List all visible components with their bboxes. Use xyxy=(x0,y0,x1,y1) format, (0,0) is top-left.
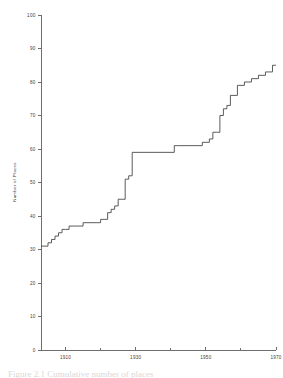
x-tick-label: 1930 xyxy=(130,355,141,360)
y-tick-label: 30 xyxy=(30,247,36,252)
chart-canvas: 0102030405060708090100 1910193019501970 … xyxy=(0,0,283,378)
y-axis-title: Number of Places xyxy=(12,162,17,202)
y-tick-label: 100 xyxy=(27,13,36,18)
y-tick-label: 50 xyxy=(30,180,36,185)
x-tick-label: 1970 xyxy=(270,355,281,360)
y-tick-label: 0 xyxy=(33,348,36,353)
y-tick-label: 60 xyxy=(30,147,36,152)
chart-figure: 0102030405060708090100 1910193019501970 … xyxy=(0,0,283,378)
y-tick-label: 40 xyxy=(30,214,36,219)
chart-background xyxy=(0,0,283,378)
y-tick-label: 90 xyxy=(30,46,36,51)
x-tick-label: 1910 xyxy=(60,355,71,360)
y-tick-label: 20 xyxy=(30,281,36,286)
y-tick-label: 80 xyxy=(30,80,36,85)
x-tick-label: 1950 xyxy=(200,355,211,360)
y-tick-label: 10 xyxy=(30,314,36,319)
y-tick-label: 70 xyxy=(30,113,36,118)
